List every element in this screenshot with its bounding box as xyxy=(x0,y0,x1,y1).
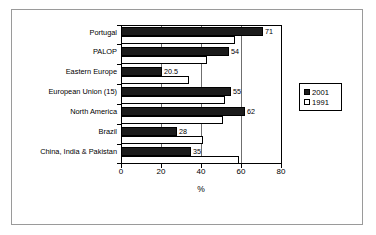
bar-2001 xyxy=(121,107,245,116)
bar-1991 xyxy=(121,116,223,124)
x-tick-label: 20 xyxy=(151,167,171,176)
x-tick-label: 60 xyxy=(231,167,251,176)
bar-chart: Portugal PALOP Eastern Europe European U… xyxy=(0,0,376,235)
legend-label: 1991 xyxy=(312,98,329,107)
bar-1991 xyxy=(121,56,207,64)
bar-value-label: 35 xyxy=(193,148,201,156)
y-axis-tick xyxy=(117,124,121,125)
y-axis-tick xyxy=(117,104,121,105)
bar-2001 xyxy=(121,127,177,136)
y-axis-tick xyxy=(117,44,121,45)
y-axis-tick xyxy=(117,144,121,145)
category-label: PALOP xyxy=(21,48,117,56)
bar-value-label: 55 xyxy=(233,88,241,96)
category-label: North America xyxy=(21,108,117,116)
x-tick-label: 80 xyxy=(271,167,291,176)
bar-value-label: 62 xyxy=(247,108,255,116)
x-axis-title: % xyxy=(181,184,221,194)
category-label: Eastern Europe xyxy=(21,68,117,76)
category-label: European Union (15) xyxy=(21,88,117,96)
bar-value-label: 28 xyxy=(179,128,187,136)
legend-entry-1991: 1991 xyxy=(304,97,337,107)
bar-1991 xyxy=(121,136,203,144)
bar-1991 xyxy=(121,156,239,164)
bar-value-label: 54 xyxy=(231,48,239,56)
category-label: Portugal xyxy=(21,29,117,37)
legend-swatch-2001-icon xyxy=(304,89,310,95)
bar-value-label: 71 xyxy=(265,28,273,36)
category-label: Brazil xyxy=(21,128,117,136)
y-axis-tick xyxy=(117,64,121,65)
bar-2001 xyxy=(121,67,162,76)
bar-2001 xyxy=(121,27,263,36)
bar-2001 xyxy=(121,87,231,96)
bar-1991 xyxy=(121,36,235,44)
plot-top-edge xyxy=(121,25,282,26)
legend-entry-2001: 2001 xyxy=(304,87,337,97)
bar-1991 xyxy=(121,76,189,84)
bar-value-label: 20.5 xyxy=(164,68,178,76)
legend-swatch-1991-icon xyxy=(304,99,310,105)
y-axis-tick xyxy=(117,25,121,26)
x-tick-label: 0 xyxy=(111,167,131,176)
category-label: China, India & Pakistan xyxy=(11,148,117,156)
bar-2001 xyxy=(121,147,191,156)
chart-legend: 2001 1991 xyxy=(299,83,342,111)
gridline xyxy=(241,25,242,163)
y-axis-tick xyxy=(117,84,121,85)
x-tick-label: 40 xyxy=(191,167,211,176)
plot-right-edge xyxy=(281,25,282,163)
bar-2001 xyxy=(121,47,229,56)
bar-1991 xyxy=(121,96,225,104)
legend-label: 2001 xyxy=(312,88,329,97)
